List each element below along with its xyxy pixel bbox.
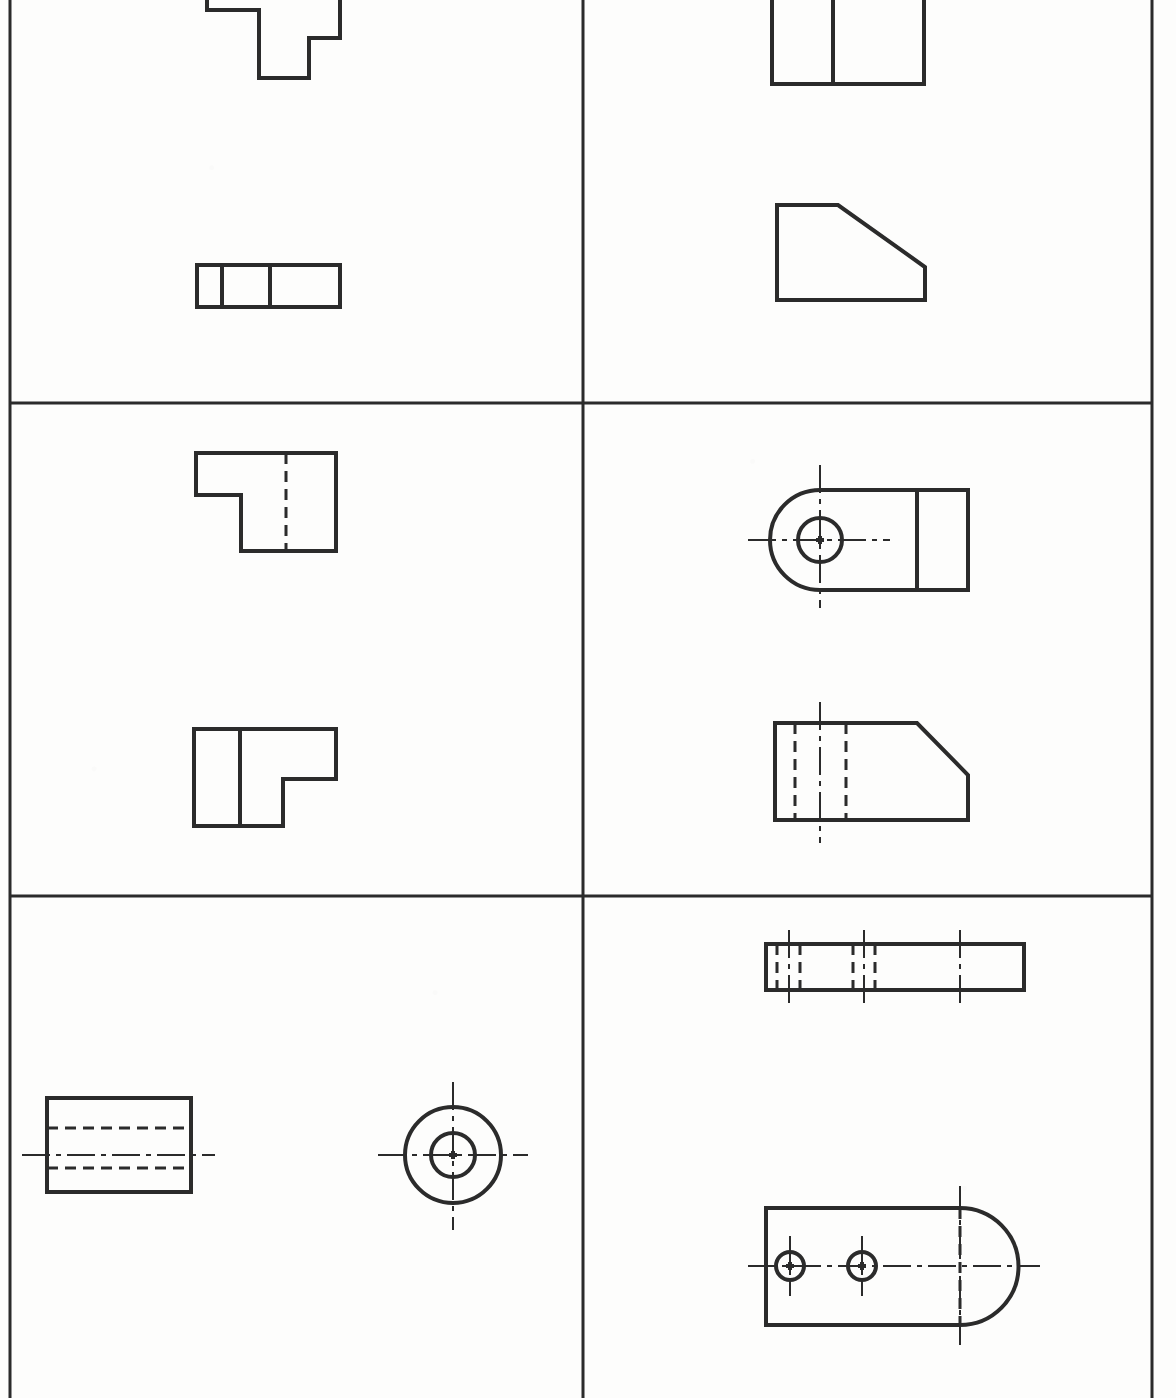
cylinder-with-bore-front-view [47,1098,191,1192]
l-step-block-front-view [194,729,336,826]
drawing-sheet [0,0,1176,1398]
chamfered-block-with-hidden-bore-front-view [775,723,968,820]
drawing-canvas [0,0,1176,1398]
two-compartment-rectangle-top-view [772,0,924,84]
chamfered-block-front-view [777,205,925,300]
stepped-t-block-front-view [207,0,340,78]
l-notch-block-top-view [196,453,336,551]
long-bar-with-two-hidden-bores-front-view [766,944,1024,990]
